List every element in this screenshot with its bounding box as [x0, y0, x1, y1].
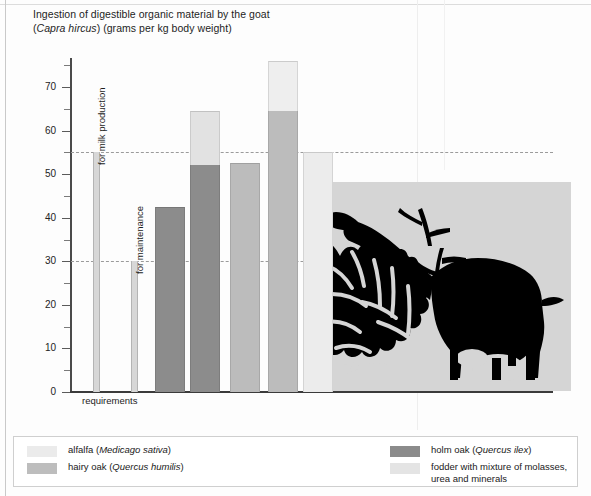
y-tick-label-50: 50 [16, 168, 56, 179]
legend-label: fodder with mixture of molasses,urea and… [431, 461, 567, 484]
y-tick-label-10: 10 [16, 342, 56, 353]
bar-3-segment-1 [230, 163, 260, 392]
bar-4-segment-1 [268, 111, 298, 392]
bar-2-segment-1 [190, 165, 220, 392]
legend-column-right: holm oak (Quercus ilex)fodder with mixtu… [390, 444, 567, 488]
legend-swatch [27, 446, 57, 457]
legend: alfalfa (Medicago sativa)hairy oak (Quer… [13, 436, 578, 487]
legend-label: hairy oak (Quercus humilis) [68, 461, 184, 473]
bar-4-segment-2 [268, 61, 298, 111]
legend-item: alfalfa (Medicago sativa) [27, 444, 184, 457]
x-axis-label: requirements [82, 395, 137, 406]
requirement-label-1: for milk production [96, 88, 107, 166]
legend-item: hairy oak (Quercus humilis) [27, 461, 184, 474]
legend-label: alfalfa (Medicago sativa) [68, 444, 171, 456]
requirement-bar-2 [131, 261, 138, 392]
legend-swatch [390, 463, 420, 474]
bar-5-segment-1 [303, 152, 333, 392]
legend-label: holm oak (Quercus ilex) [431, 444, 531, 456]
bar-1-segment-1 [155, 207, 185, 392]
requirement-label-2: for maintenance [134, 206, 145, 274]
legend-item: fodder with mixture of molasses,urea and… [390, 461, 567, 484]
bar-series-layer [0, 0, 591, 393]
bar-2-segment-2 [190, 111, 220, 165]
y-tick-label-20: 20 [16, 299, 56, 310]
y-tick-label-40: 40 [16, 212, 56, 223]
plot-area: for milk productionfor maintenance 01020… [0, 0, 591, 430]
chart-page: Ingestion of digestible organic material… [0, 0, 591, 496]
y-tick-label-70: 70 [16, 81, 56, 92]
legend-item: holm oak (Quercus ilex) [390, 444, 567, 457]
requirement-bar-1 [93, 152, 100, 392]
y-tick-label-60: 60 [16, 125, 56, 136]
legend-swatch [27, 463, 57, 474]
legend-swatch [390, 446, 420, 457]
y-tick-label-30: 30 [16, 255, 56, 266]
legend-column-left: alfalfa (Medicago sativa)hairy oak (Quer… [27, 444, 184, 478]
y-tick-label-0: 0 [16, 386, 56, 397]
